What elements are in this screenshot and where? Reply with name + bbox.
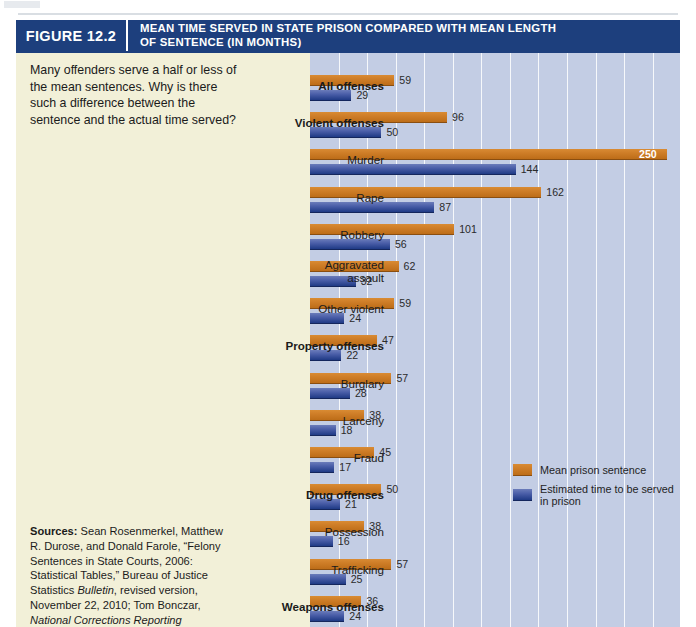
- figure-body: Many offenders serve a half or less of t…: [16, 51, 680, 627]
- bar-value-sentence: 250: [639, 148, 657, 160]
- sources-label: Sources:: [30, 525, 77, 537]
- category-label: Property offenses: [144, 339, 384, 352]
- figure-header: FIGURE 12.2 MEAN TIME SERVED IN STATE PR…: [16, 20, 680, 51]
- legend-item: Mean prison sentence: [513, 464, 680, 476]
- category-label: Robbery: [144, 228, 384, 241]
- figure-number: FIGURE 12.2: [26, 28, 116, 44]
- legend-label-sentence: Mean prison sentence: [540, 464, 646, 476]
- category-label: Rape: [144, 191, 384, 204]
- sources-italic-1: Bulletin: [77, 584, 113, 596]
- sources-italic-2: National Corrections Reporting: [30, 614, 182, 626]
- category-label: Violent offenses: [144, 116, 384, 129]
- bar-value-sentence: 50: [386, 483, 398, 495]
- bar-value-sentence: 101: [459, 223, 477, 235]
- bar-value-served: 56: [395, 238, 407, 250]
- figure-title: MEAN TIME SERVED IN STATE PRISON COMPARE…: [128, 20, 680, 51]
- category-label: All offenses: [144, 79, 384, 92]
- page-top-mark: [4, 1, 40, 8]
- category-label: Fraud: [144, 451, 384, 464]
- figure-title-line-2: OF SENTENCE (IN MONTHS): [140, 36, 680, 49]
- bar-value-served: 87: [439, 201, 451, 213]
- category-label: Weapons offenses: [144, 600, 384, 613]
- category-label: Burglary: [144, 377, 384, 390]
- bar-value-sentence: 59: [399, 74, 411, 86]
- chart-legend: Mean prison sentence Estimated time to b…: [513, 464, 680, 514]
- figure-number-box: FIGURE 12.2: [16, 20, 128, 51]
- bar-value-sentence: 57: [396, 372, 408, 384]
- bar-value-sentence: 96: [452, 111, 464, 123]
- bar-value-sentence: 57: [396, 558, 408, 570]
- bar-value-served: 144: [521, 163, 539, 175]
- bar-value-sentence: 162: [546, 186, 564, 198]
- bar-value-served: 50: [386, 126, 398, 138]
- category-label: Possession: [144, 525, 384, 538]
- bar-value-sentence: 62: [404, 260, 416, 272]
- category-label: Trafficking: [144, 563, 384, 576]
- category-label: Aggravated assault: [304, 258, 384, 285]
- category-label: Murder: [144, 153, 384, 166]
- page-top-rule: [18, 13, 678, 15]
- figure-title-line-1: MEAN TIME SERVED IN STATE PRISON COMPARE…: [140, 22, 680, 35]
- category-label: Other violent: [144, 302, 384, 315]
- legend-swatch-sentence-icon: [513, 464, 532, 476]
- legend-label-served: Estimated time to be served in prison: [540, 483, 680, 507]
- bar-value-sentence: 59: [399, 297, 411, 309]
- legend-item: Estimated time to be served in prison: [513, 483, 680, 507]
- category-label: Larceny: [144, 414, 384, 427]
- category-label: Drug offenses: [144, 488, 384, 501]
- legend-swatch-served-icon: [513, 489, 532, 501]
